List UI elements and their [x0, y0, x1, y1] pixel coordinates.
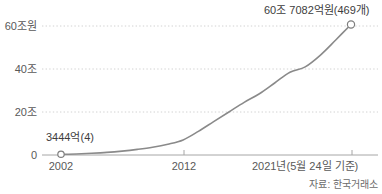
annotation-start-value: 3444억(4): [46, 131, 94, 143]
annotation-end-value: 60조 7082억원(469개): [264, 4, 369, 16]
source-note: 자료: 한국거래소: [309, 179, 378, 190]
chart-container: 60조원 40조 20조 0 2002 2012 2021년(5월 24일 기준…: [0, 0, 382, 194]
data-series-line: [61, 24, 351, 154]
y-axis-tick-label-40: 40조: [15, 63, 37, 75]
data-point-marker-start[interactable]: [58, 151, 64, 157]
y-axis-tick-label-60: 60조원: [5, 20, 37, 32]
x-axis-tick-label-2002: 2002: [40, 160, 82, 172]
y-axis-tick-label-20: 20조: [15, 106, 37, 118]
data-point-marker-end[interactable]: [347, 21, 354, 28]
x-axis-tick-label-2012: 2012: [163, 160, 205, 172]
x-axis-tick-label-2021: 2021년(5월 24일 기준): [252, 160, 378, 172]
y-axis-tick-label-0: 0: [31, 149, 37, 161]
